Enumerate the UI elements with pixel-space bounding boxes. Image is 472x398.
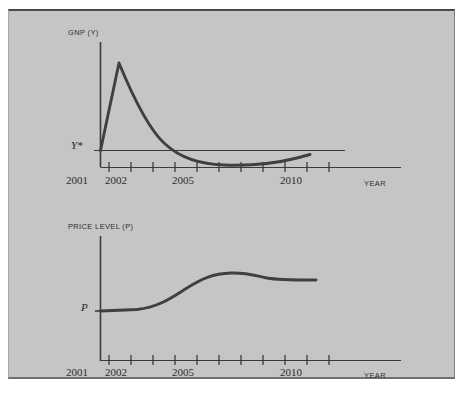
gnp-tick-label-2005: 2005	[172, 174, 194, 186]
price-curve	[101, 273, 317, 311]
gnp-tick-label-2010: 2010	[280, 174, 302, 186]
price-tick-label-2010: 2010	[280, 366, 302, 378]
gnp-level-label: Y*	[71, 139, 83, 151]
figure-panel: GNP (Y) Y* 2001 2002 2005 2010 YEAR	[8, 9, 455, 379]
price-level-chart: PRICE LEVEL (P) P 2001 2002 2005 2010 YE…	[9, 196, 456, 381]
gnp-plot-svg	[9, 11, 456, 196]
gnp-tick-label-2001: 2001	[66, 174, 88, 186]
figure-page: GNP (Y) Y* 2001 2002 2005 2010 YEAR	[0, 0, 472, 398]
gnp-tick-label-2002: 2002	[105, 174, 127, 186]
price-tick-label-2005: 2005	[172, 366, 194, 378]
gnp-x-axis-label: YEAR	[364, 179, 386, 188]
gnp-chart: GNP (Y) Y* 2001 2002 2005 2010 YEAR	[9, 11, 456, 196]
gnp-y-axis-label: GNP (Y)	[68, 28, 99, 37]
price-tick-label-2002: 2002	[105, 366, 127, 378]
gnp-curve	[101, 63, 311, 165]
price-x-axis-label: YEAR	[364, 371, 386, 380]
price-y-axis-label: PRICE LEVEL (P)	[68, 222, 133, 231]
price-level-label: P	[81, 301, 88, 313]
price-tick-label-2001: 2001	[66, 366, 88, 378]
